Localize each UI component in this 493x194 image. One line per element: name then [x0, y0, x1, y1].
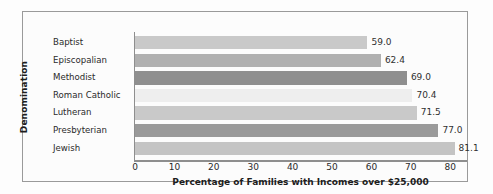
- x-tick-label: 0: [120, 162, 150, 172]
- category-label: Episcopalian: [53, 52, 125, 70]
- bar-value-label: 70.4: [412, 89, 436, 102]
- bar-value-label: 81.1: [455, 142, 479, 155]
- bar: [135, 54, 381, 67]
- bar-value-label: 69.0: [407, 71, 431, 84]
- x-axis-tick-labels: 01020304050607080: [135, 162, 466, 175]
- chart-frame: Denomination BaptistEpiscopalianMethodis…: [22, 11, 468, 182]
- bar-row: 59.0: [135, 34, 466, 52]
- bar-row: 77.0: [135, 122, 466, 140]
- category-label: Lutheran: [53, 104, 125, 122]
- bar-value-label: 71.5: [417, 106, 441, 119]
- category-label: Presbyterian: [53, 122, 125, 140]
- y-axis-title: Denomination: [19, 42, 33, 152]
- bar-value-label: 77.0: [438, 124, 462, 137]
- x-tick-label: 30: [238, 162, 268, 172]
- bar-row: 62.4: [135, 52, 466, 70]
- category-axis-labels: BaptistEpiscopalianMethodistRoman Cathol…: [53, 34, 125, 158]
- bar-row: 70.4: [135, 87, 466, 105]
- x-tick-label: 20: [199, 162, 229, 172]
- bar: [135, 124, 438, 137]
- category-label: Baptist: [53, 34, 125, 52]
- category-label: Roman Catholic: [53, 87, 125, 105]
- bar: [135, 142, 455, 155]
- x-tick-label: 40: [278, 162, 308, 172]
- category-label: Methodist: [53, 69, 125, 87]
- plot-area: 59.062.469.070.471.577.081.1: [135, 32, 466, 160]
- bar-row: 69.0: [135, 69, 466, 87]
- x-tick-label: 80: [435, 162, 465, 172]
- x-tick-label: 50: [317, 162, 347, 172]
- bar: [135, 71, 407, 84]
- chart-figure: Denomination BaptistEpiscopalianMethodis…: [0, 0, 493, 194]
- category-label: Jewish: [53, 140, 125, 158]
- x-tick-label: 70: [396, 162, 426, 172]
- bar: [135, 106, 417, 119]
- bar: [135, 89, 412, 102]
- x-tick-label: 10: [159, 162, 189, 172]
- bar-row: 81.1: [135, 140, 466, 158]
- x-tick-label: 60: [356, 162, 386, 172]
- bar-value-label: 62.4: [381, 54, 405, 67]
- bar-row: 71.5: [135, 104, 466, 122]
- bar: [135, 36, 367, 49]
- x-axis-title: Percentage of Families with Incomes over…: [135, 177, 466, 187]
- bar-value-label: 59.0: [367, 36, 391, 49]
